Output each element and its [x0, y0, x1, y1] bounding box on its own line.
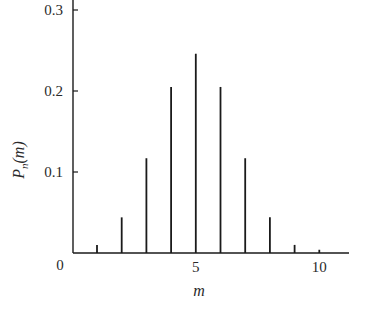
origin-label: 0 — [56, 257, 64, 273]
stems — [97, 54, 319, 253]
x-axis-label: m — [193, 282, 205, 299]
x-tick-label: 5 — [192, 259, 200, 275]
y-tick-label: 0.3 — [44, 2, 63, 18]
y-tick-label: 0.1 — [44, 164, 63, 180]
y-axis-label: Pn(m) — [10, 141, 30, 180]
stem-chart: 0.10.20.3 510 0 m Pn(m) — [0, 0, 372, 312]
y-tick-label: 0.2 — [44, 83, 63, 99]
svg-text:Pn(m): Pn(m) — [10, 141, 30, 180]
x-ticks: 510 — [192, 259, 327, 275]
axes — [73, 0, 349, 253]
x-tick-label: 10 — [312, 259, 327, 275]
